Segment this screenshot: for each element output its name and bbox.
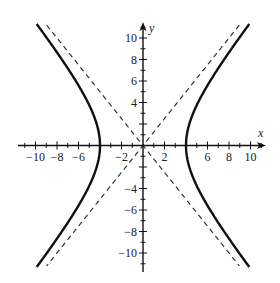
y-tick-label: −6 bbox=[124, 203, 137, 217]
x-tick-label: 10 bbox=[245, 150, 257, 164]
x-tick-label: −10 bbox=[26, 150, 45, 164]
x-tick-label: −8 bbox=[51, 150, 64, 164]
x-axis-label: x bbox=[257, 126, 264, 140]
x-tick-label: −6 bbox=[72, 150, 85, 164]
y-tick-label: 8 bbox=[131, 53, 137, 67]
y-tick-label: 4 bbox=[131, 96, 137, 110]
y-tick-label: −4 bbox=[124, 182, 137, 196]
x-tick-label: −2 bbox=[115, 150, 128, 164]
hyperbola-diagram: −10−8−6−22681010864−4−6−8−10xy bbox=[0, 0, 280, 283]
x-tick-label: 8 bbox=[226, 150, 232, 164]
y-tick-label: −10 bbox=[118, 246, 137, 260]
y-tick-label: −8 bbox=[124, 225, 137, 239]
x-tick-label: 2 bbox=[162, 150, 168, 164]
y-tick-label: 10 bbox=[125, 31, 137, 45]
x-tick-label: 6 bbox=[205, 150, 211, 164]
y-axis-label: y bbox=[148, 21, 155, 35]
tick-labels: −10−8−6−22681010864−4−6−8−10xy bbox=[26, 21, 264, 260]
y-tick-label: 6 bbox=[131, 74, 137, 88]
